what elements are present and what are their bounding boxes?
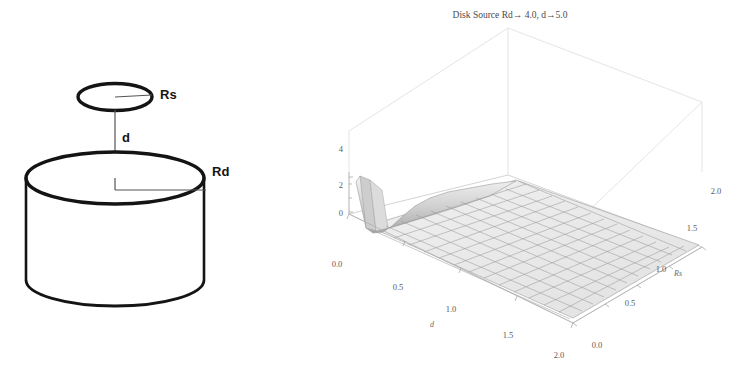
x-tick-15: 1.5 [503,330,514,340]
x-tick-00: 0.0 [332,259,343,269]
figure-root: Rs d Rd [0,0,733,378]
geometry-diagram-svg: Rs d Rd [0,0,320,378]
y-axis-label: Rs [673,269,682,278]
z-axis [349,172,353,214]
x-tick-10: 1.0 [446,304,457,314]
separation-label: d [122,130,130,145]
x-tick-05: 0.5 [393,282,404,292]
y-tick-15: 1.5 [687,223,698,233]
surface-plot-panel: Disk Source Rd→ 4.0, d→5.0 [320,0,733,378]
plot-title: Disk Source Rd→ 4.0, d→5.0 [453,10,568,20]
surface-sheet [368,180,699,318]
detector-radius-label: Rd [212,164,229,179]
y-tick-10: 1.0 [656,264,667,274]
y-tick-05: 0.5 [625,298,636,308]
y-tick-20: 2.0 [711,186,722,196]
x-axis-label: d [430,320,435,329]
z-tick-4: 4 [339,144,344,154]
cylinder-bottom-arc [26,280,204,306]
z-tick-2: 2 [339,180,343,190]
z-tick-0: 0 [339,208,343,218]
x-tick-20: 2.0 [554,350,565,360]
geometry-diagram-panel: Rs d Rd [0,0,320,378]
surface-plot-svg: Disk Source Rd→ 4.0, d→5.0 [320,0,733,378]
source-radius-label: Rs [160,87,177,102]
y-tick-00: 0.0 [592,340,603,350]
